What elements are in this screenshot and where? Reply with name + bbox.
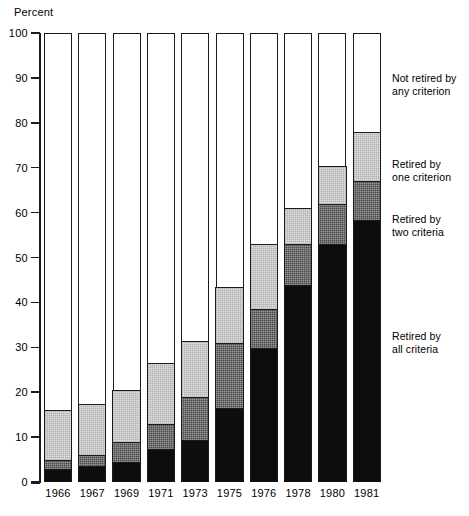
segment-all-criteria [215, 408, 243, 482]
x-axis-label-1981: 1981 [347, 487, 387, 499]
legend-label-line2: two criteria [392, 226, 469, 239]
y-axis-tick [31, 212, 40, 214]
y-axis-tick-label: 40 [0, 297, 28, 307]
segment-one-criterion [353, 132, 381, 181]
y-axis-tick-label: 20 [0, 387, 28, 397]
segment-all-criteria [112, 462, 140, 482]
segment-two-criteria [250, 309, 278, 347]
segment-one-criterion [44, 410, 72, 459]
segment-two-criteria [112, 442, 140, 462]
bar-1981 [353, 33, 381, 482]
legend-label-line1: Retired by [392, 213, 469, 226]
legend-label-line1: Retired by [392, 330, 469, 343]
segment-all-criteria [78, 466, 106, 482]
legend-label-line1: Retired by [392, 158, 469, 171]
legend-label-line1: Not retired by [392, 72, 469, 85]
segment-two-criteria [147, 424, 175, 449]
y-axis-tick [31, 302, 40, 304]
segment-one-criterion [147, 363, 175, 424]
bar-1978 [284, 33, 312, 482]
bar-1967 [78, 33, 106, 482]
y-axis-tick-label: 90 [0, 73, 28, 83]
segment-two-criteria [353, 181, 381, 219]
legend-label-line2: any criterion [392, 85, 469, 98]
segment-two-criteria [284, 244, 312, 284]
y-axis-tick-label: 80 [0, 118, 28, 128]
y-axis-title: Percent [14, 6, 53, 18]
y-axis-tick-label: 0 [0, 477, 28, 487]
segment-all-criteria [318, 244, 346, 482]
segment-one-criterion [112, 390, 140, 442]
y-axis-tick-label: 50 [0, 253, 28, 263]
bar-1980 [318, 33, 346, 482]
y-axis-tick-label: 60 [0, 208, 28, 218]
y-axis-tick [31, 347, 40, 349]
segment-two-criteria [44, 460, 72, 469]
segment-one-criterion [250, 244, 278, 309]
segment-one-criterion [318, 166, 346, 204]
segment-all-criteria [44, 469, 72, 482]
y-axis-tick [31, 77, 40, 79]
segment-one-criterion [181, 341, 209, 397]
bar-1975 [216, 33, 244, 482]
segment-all-criteria [181, 440, 209, 483]
stacked-bar-chart: Percent 0102030405060708090100 196619671… [0, 0, 469, 516]
y-axis-tick-label: 30 [0, 342, 28, 352]
bar-1966 [44, 33, 72, 482]
segment-one-criterion [215, 287, 243, 343]
segment-two-criteria [215, 343, 243, 408]
segment-two-criteria [318, 204, 346, 244]
segment-two-criteria [181, 397, 209, 440]
segment-all-criteria [250, 348, 278, 483]
segment-two-criteria [78, 455, 106, 466]
legend-entry-two_criteria: Retired bytwo criteria [392, 213, 469, 238]
segment-all-criteria [147, 449, 175, 483]
bar-1969 [113, 33, 141, 482]
y-axis-tick [31, 257, 40, 259]
segment-one-criterion [284, 208, 312, 244]
legend-entry-one_criterion: Retired byone criterion [392, 158, 469, 183]
bar-1976 [250, 33, 278, 482]
y-axis-tick-label: 70 [0, 163, 28, 173]
y-axis-tick [31, 122, 40, 124]
segment-all-criteria [284, 285, 312, 483]
bar-1973 [181, 33, 209, 482]
y-axis-tick [31, 32, 40, 34]
legend-label-line2: one criterion [392, 171, 469, 184]
y-axis-tick-label: 100 [0, 28, 28, 38]
legend-label-line2: all criteria [392, 343, 469, 356]
x-axis-baseline [31, 482, 40, 484]
bar-1971 [147, 33, 175, 482]
y-axis-tick [31, 167, 40, 169]
y-axis-tick-label: 10 [0, 432, 28, 442]
legend-entry-all_criteria: Retired byall criteria [392, 330, 469, 355]
segment-one-criterion [78, 404, 106, 456]
y-axis-tick [31, 391, 40, 393]
legend-entry-not_retired: Not retired byany criterion [392, 72, 469, 97]
segment-all-criteria [353, 220, 381, 483]
y-axis-tick [31, 436, 40, 438]
